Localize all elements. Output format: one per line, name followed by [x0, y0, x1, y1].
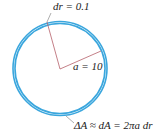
dr-leader: [47, 13, 51, 22]
area-leader: [66, 116, 74, 123]
area-equation: ΔA ≈ dA = 2πa dr: [74, 119, 153, 131]
radius-line-dr: [47, 22, 60, 69]
radius-label: a = 10: [73, 60, 102, 72]
dr-label: dr = 0.1: [53, 0, 89, 12]
